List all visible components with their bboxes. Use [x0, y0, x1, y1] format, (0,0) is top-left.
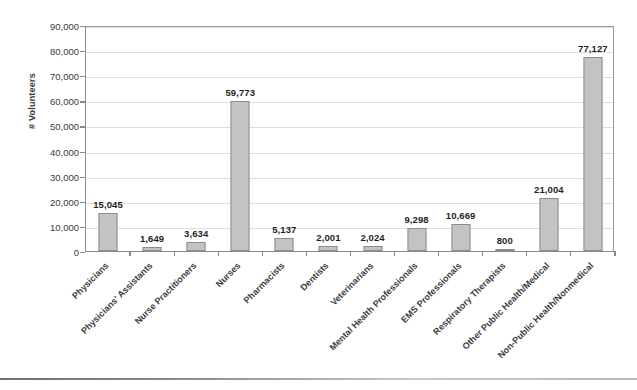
x-axis-tick-mark: [174, 251, 175, 256]
bar-slot: 5,137: [262, 27, 306, 251]
bar-slot: 15,045: [86, 27, 130, 251]
y-axis-tick-label: 10,000: [31, 221, 79, 232]
bar-value-label: 800: [497, 235, 513, 246]
x-axis-tick-mark: [394, 251, 395, 256]
bar[interactable]: [231, 101, 250, 251]
bar-value-label: 77,127: [578, 43, 608, 54]
x-axis-tick-mark: [306, 251, 307, 256]
bar[interactable]: [319, 246, 338, 251]
x-axis-tick-mark: [438, 251, 439, 256]
x-axis-tick-mark: [526, 251, 527, 256]
chart-canvas: # Volunteers 010,00020,00030,00040,00050…: [0, 0, 637, 390]
bar-value-label: 59,773: [225, 87, 255, 98]
bar-value-label: 2,001: [316, 232, 340, 243]
bar[interactable]: [363, 246, 382, 251]
x-axis-tick-mark: [218, 251, 219, 256]
bar-value-label: 3,634: [184, 228, 208, 239]
bar-value-label: 21,004: [534, 184, 564, 195]
bar-value-label: 5,137: [272, 224, 296, 235]
x-axis-tick-mark: [482, 251, 483, 256]
bar-value-label: 15,045: [93, 199, 123, 210]
y-axis-tick-label: 0: [31, 247, 79, 258]
bar[interactable]: [539, 198, 558, 251]
x-axis-tick-mark: [614, 251, 615, 256]
bar-value-label: 2,024: [360, 232, 384, 243]
y-axis-tick-label: 30,000: [31, 171, 79, 182]
bar-slot: 77,127: [571, 27, 615, 251]
bar[interactable]: [99, 213, 118, 251]
bar-slot: 2,024: [351, 27, 395, 251]
bar[interactable]: [143, 247, 162, 251]
x-axis-tick-mark: [262, 251, 263, 256]
bar-slot: 9,298: [395, 27, 439, 251]
y-axis-tick-label: 50,000: [31, 121, 79, 132]
y-axis-tick-label: 60,000: [31, 96, 79, 107]
bar-value-label: 1,649: [140, 233, 164, 244]
x-axis-tick-mark: [570, 251, 571, 256]
y-axis-tick-label: 90,000: [31, 21, 79, 32]
bar-value-label: 10,669: [446, 210, 476, 221]
bar[interactable]: [495, 249, 514, 251]
scan-artifact-line: [0, 378, 637, 380]
bar-slot: 800: [483, 27, 527, 251]
bar[interactable]: [407, 228, 426, 251]
y-axis-tick-label: 80,000: [31, 46, 79, 57]
bar[interactable]: [187, 242, 206, 251]
x-axis-tick-mark: [350, 251, 351, 256]
bar-slot: 21,004: [527, 27, 571, 251]
plot-area: 15,0451,6493,63459,7735,1372,0012,0249,2…: [85, 26, 614, 252]
bar[interactable]: [451, 224, 470, 251]
bar-slot: 59,773: [218, 27, 262, 251]
y-axis-tick-mark: [80, 252, 85, 253]
bar-slot: 10,669: [439, 27, 483, 251]
y-axis-tick-label: 20,000: [31, 196, 79, 207]
bar-slot: 3,634: [174, 27, 218, 251]
y-axis-tick-label: 40,000: [31, 146, 79, 157]
bar-value-label: 9,298: [404, 214, 428, 225]
y-axis-tick-label: 70,000: [31, 71, 79, 82]
x-axis-tick-mark: [129, 251, 130, 256]
bar-slot: 2,001: [306, 27, 350, 251]
bar[interactable]: [275, 238, 294, 251]
bar[interactable]: [583, 57, 602, 251]
bar-slot: 1,649: [130, 27, 174, 251]
